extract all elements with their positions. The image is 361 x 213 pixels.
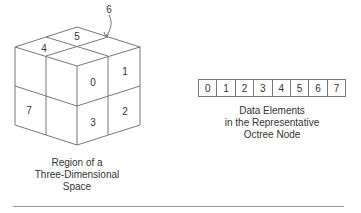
cube-label-3: 3 <box>90 117 96 128</box>
array-caption: Data Elements in the Representative Octr… <box>196 105 348 141</box>
array-caption-line: in the Representative <box>196 117 348 129</box>
octree-node-array: 0 1 2 3 4 5 6 7 <box>198 79 346 97</box>
array-cell: 0 <box>199 80 217 96</box>
cube-label-6: 6 <box>106 4 112 15</box>
cube-caption: Region of a Three-Dimensional Space <box>27 157 127 193</box>
cube-label-4: 4 <box>41 43 47 54</box>
cube-caption-line: Three-Dimensional <box>27 169 127 181</box>
array-caption-line: Octree Node <box>196 129 348 141</box>
cube-label-1: 1 <box>122 66 128 77</box>
array-cell: 7 <box>328 80 345 96</box>
array-cell: 4 <box>273 80 291 96</box>
array-caption-line: Data Elements <box>196 105 348 117</box>
array-cell: 2 <box>236 80 254 96</box>
cube-caption-line: Space <box>27 181 127 193</box>
cube-label-5: 5 <box>74 31 80 42</box>
bottom-divider <box>13 206 344 207</box>
cube-label-7: 7 <box>26 105 32 116</box>
cube-label-0: 0 <box>90 77 96 88</box>
array-cell: 6 <box>309 80 327 96</box>
array-cell: 3 <box>254 80 272 96</box>
cube-caption-line: Region of a <box>27 157 127 169</box>
array-cell: 1 <box>217 80 235 96</box>
cube-label-2: 2 <box>122 106 128 117</box>
array-cell: 5 <box>291 80 309 96</box>
callout-arrow <box>106 15 111 36</box>
